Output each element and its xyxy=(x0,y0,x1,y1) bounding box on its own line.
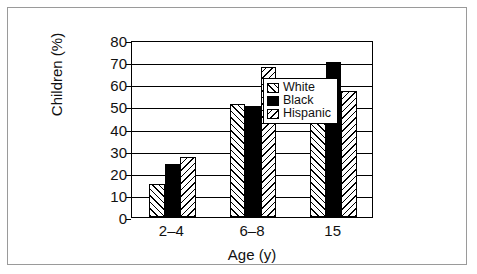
y-tick-label-30: 30 xyxy=(93,144,127,159)
x-tick-label-2: 15 xyxy=(298,222,368,239)
bar-black-68 xyxy=(245,106,261,217)
y-tick-60 xyxy=(126,86,131,87)
y-tick-20 xyxy=(126,175,131,176)
bar-hispanic-15 xyxy=(341,91,357,217)
y-tick-label-50: 50 xyxy=(93,100,127,115)
y-tick-label-70: 70 xyxy=(93,56,127,71)
legend-item-hispanic: Hispanic xyxy=(267,107,331,120)
legend-item-black: Black xyxy=(267,94,331,107)
y-tick-label-0: 0 xyxy=(93,211,127,226)
y-tick-30 xyxy=(126,153,131,154)
bar-white-24 xyxy=(149,184,165,217)
legend-label-black: Black xyxy=(283,94,314,107)
legend-swatch-white-icon xyxy=(267,83,279,93)
legend-label-white: White xyxy=(283,81,315,94)
y-tick-0 xyxy=(126,219,131,220)
bar-black-24 xyxy=(165,164,181,217)
x-tick-label-1: 6–8 xyxy=(217,222,287,239)
legend-label-hispanic: Hispanic xyxy=(283,107,331,120)
y-axis-title: Children (%) xyxy=(48,11,65,139)
y-tick-40 xyxy=(126,131,131,132)
figure-frame: Children (%) 80706050403020100 White Bla… xyxy=(7,7,467,265)
y-tick-70 xyxy=(126,64,131,65)
y-tick-80 xyxy=(126,42,131,43)
plot-area: White Black Hispanic xyxy=(131,41,373,218)
y-tick-label-40: 40 xyxy=(93,122,127,137)
y-tick-label-10: 10 xyxy=(93,188,127,203)
x-tick-label-0: 2–4 xyxy=(136,222,206,239)
x-axis-tick-labels: 2–46–815 xyxy=(131,222,373,242)
y-tick-label-20: 20 xyxy=(93,166,127,181)
legend-swatch-black-icon xyxy=(267,96,279,106)
y-tick-label-80: 80 xyxy=(93,34,127,49)
y-tick-50 xyxy=(126,108,131,109)
bar-hispanic-24 xyxy=(180,157,196,217)
x-axis-title: Age (y) xyxy=(131,246,373,263)
legend-item-white: White xyxy=(267,81,331,94)
legend-swatch-hispanic-icon xyxy=(267,109,279,119)
chart-legend: White Black Hispanic xyxy=(263,78,338,124)
y-axis-tick-labels: 80706050403020100 xyxy=(87,41,127,218)
y-tick-10 xyxy=(126,197,131,198)
bar-white-68 xyxy=(230,104,246,217)
y-tick-label-60: 60 xyxy=(93,78,127,93)
